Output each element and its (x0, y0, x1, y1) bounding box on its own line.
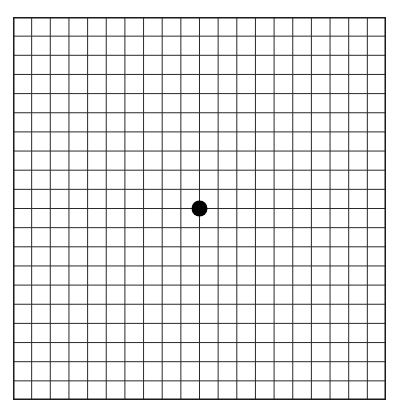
fixation-dot (192, 201, 208, 217)
amsler-grid (13, 17, 386, 400)
grid-lines (13, 17, 386, 400)
